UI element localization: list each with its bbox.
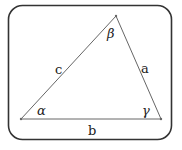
vertex-alpha bbox=[20, 118, 22, 120]
angle-alpha-label: α bbox=[37, 103, 46, 118]
vertex-gamma bbox=[160, 118, 162, 120]
side-a-label: a bbox=[141, 61, 149, 76]
side-b-label: b bbox=[88, 123, 96, 138]
triangle-diagram: β c a α γ b bbox=[0, 0, 182, 150]
angle-beta-label: β bbox=[106, 26, 115, 41]
side-c-label: c bbox=[55, 62, 62, 77]
angle-gamma-label: γ bbox=[142, 103, 150, 118]
vertex-beta bbox=[115, 15, 117, 17]
